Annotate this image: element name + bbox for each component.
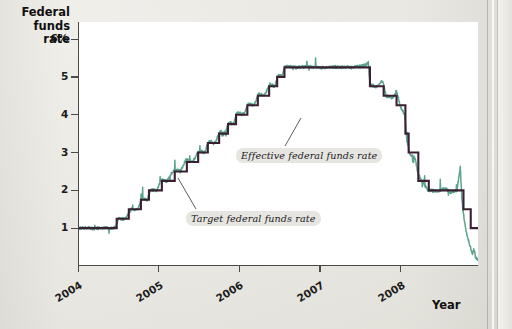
y-axis-tick [71,76,78,77]
x-axis-title: Year [432,298,461,312]
x-axis-tick [319,265,320,272]
x-axis-tick [158,265,159,272]
y-axis-tick-label: 1 [24,221,68,233]
y-axis-tick [71,190,78,191]
y-axis-title: Federal funds rate [8,6,70,47]
x-axis-line [78,265,478,266]
annotation-effective-rate: Effective federal funds rate [236,148,382,163]
y-axis-tick-labels: 6%54321 [12,0,68,329]
y-axis-tick [71,39,78,40]
y-axis-tick-label: 2 [24,183,68,195]
page-gutter-line-2 [492,0,494,329]
annotation-target-rate: Target federal funds rate [186,211,321,226]
y-axis-tick-label: 3 [24,146,68,158]
page-gutter-line-1 [487,0,488,329]
y-axis-tick-label: 5 [24,70,68,82]
page-edge-strip [498,0,512,329]
y-axis-line [78,22,79,266]
y-axis-tick [71,228,78,229]
y-axis-tick [71,114,78,115]
x-axis-tick [400,265,401,272]
chart-canvas [78,22,478,266]
x-axis-tick [78,265,79,272]
y-axis-tick [71,152,78,153]
y-axis-tick-label: 4 [24,108,68,120]
x-axis-tick [239,265,240,272]
